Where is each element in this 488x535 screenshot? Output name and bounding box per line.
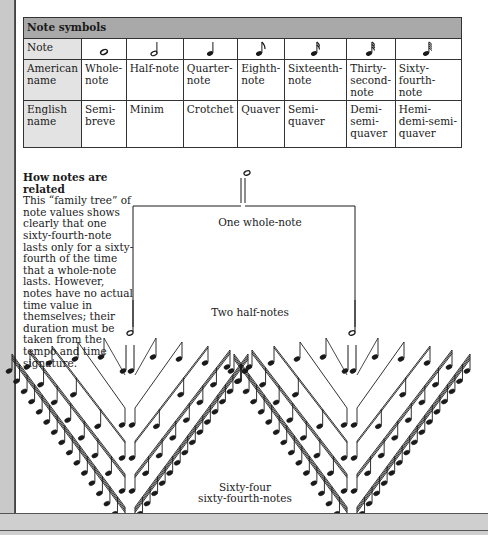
page-bottom-band	[0, 513, 488, 535]
label-one-whole-note: One whole-note	[205, 216, 315, 228]
note-family-tree-diagram	[0, 0, 488, 513]
page-bottom-rule	[0, 530, 488, 531]
label-sixty-four-line2: sixty-fourth-notes	[190, 492, 300, 504]
label-two-half-notes: Two half-notes	[195, 306, 305, 318]
